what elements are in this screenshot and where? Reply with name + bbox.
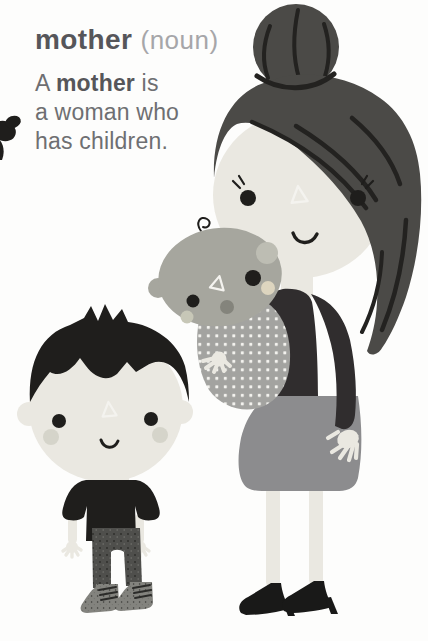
boy-hand-left: [63, 541, 81, 557]
definition-line-1-post: is: [135, 70, 159, 96]
boy-figure: [17, 304, 193, 613]
baby-nose: [220, 300, 234, 314]
boy-boot-left: [81, 584, 119, 613]
definition-line-1-pre: A: [35, 70, 56, 96]
baby-cheek-left: [181, 311, 194, 324]
mother-leg-right: [309, 486, 323, 586]
definition-bold-word: mother: [56, 70, 135, 96]
entry-word: mother: [35, 24, 132, 55]
definition-line-1: A mother is: [35, 69, 245, 98]
entry-definition: A mother is a woman who has children.: [35, 69, 245, 156]
page-edge-decoration: [0, 114, 23, 160]
definition-line-3: has children.: [35, 127, 245, 156]
mother-high-heels: [239, 581, 338, 616]
baby-ear-right: [256, 242, 278, 264]
boy-boot-right: [115, 582, 153, 611]
dictionary-page: mother (noun) A mother is a woman who ha…: [0, 0, 428, 641]
dictionary-entry: mother (noun) A mother is a woman who ha…: [35, 24, 245, 156]
boy-eye-right: [144, 412, 158, 426]
mother-legs: [266, 486, 323, 588]
boy-pants: [92, 528, 142, 588]
entry-part-of-speech: (noun): [140, 25, 218, 55]
baby-cheek-right: [261, 281, 275, 295]
boy-eye-left: [52, 414, 66, 428]
boy-cheek-left: [43, 429, 59, 445]
baby-eye-right: [245, 270, 261, 286]
mother-eye-right: [350, 190, 366, 206]
entry-headword: mother (noun): [35, 24, 245, 56]
baby-eye-left: [187, 295, 200, 308]
definition-line-2: a woman who: [35, 98, 245, 127]
baby-hair-curl: [198, 218, 209, 231]
boy-cheek-right: [152, 427, 168, 443]
mother-eye-left: [240, 190, 256, 206]
mother-leg-left: [266, 486, 280, 588]
